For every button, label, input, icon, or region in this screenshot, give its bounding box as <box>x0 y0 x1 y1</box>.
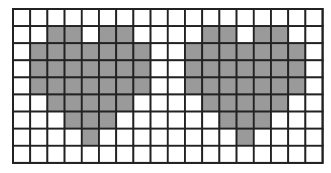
grid-cell <box>305 9 322 26</box>
grid-cell <box>30 129 47 146</box>
grid-cell <box>47 9 64 26</box>
grid-cell <box>168 146 185 163</box>
grid-cell <box>168 43 185 60</box>
grid-cell <box>13 43 30 60</box>
grid-cell <box>185 95 202 112</box>
grid-cell <box>305 112 322 129</box>
grid-cell <box>13 26 30 43</box>
right-heart-cell <box>237 60 254 77</box>
grid-cell <box>271 112 288 129</box>
grid-cell <box>219 146 236 163</box>
right-heart-cell <box>288 77 305 94</box>
grid-cell <box>133 26 150 43</box>
grid-cell <box>151 9 168 26</box>
left-heart-cell <box>82 60 99 77</box>
grid-cell <box>202 146 219 163</box>
grid-cell <box>151 26 168 43</box>
grid-cell <box>65 9 82 26</box>
left-heart-cell <box>116 60 133 77</box>
left-heart-cell <box>47 60 64 77</box>
grid-cell <box>151 43 168 60</box>
right-heart-cell <box>288 43 305 60</box>
grid-cell <box>168 129 185 146</box>
grid-cell <box>305 60 322 77</box>
left-heart-cell <box>65 95 82 112</box>
grid-cell <box>30 112 47 129</box>
grid-cell <box>305 43 322 60</box>
grid-cell <box>151 77 168 94</box>
grid-cell <box>151 146 168 163</box>
grid-cell <box>151 112 168 129</box>
left-heart-cell <box>65 112 82 129</box>
grid-cell <box>288 146 305 163</box>
grid-cell <box>254 129 271 146</box>
grid-cell <box>30 146 47 163</box>
left-heart-cell <box>82 129 99 146</box>
grid-cell <box>237 146 254 163</box>
grid-cell <box>168 26 185 43</box>
right-heart-cell <box>185 43 202 60</box>
left-heart-cell <box>82 77 99 94</box>
grid-cell <box>133 146 150 163</box>
left-heart-cell <box>133 77 150 94</box>
grid-cell <box>219 9 236 26</box>
left-heart-cell <box>99 26 116 43</box>
grid-cell <box>13 95 30 112</box>
grid-cell <box>116 146 133 163</box>
grid-cell <box>13 77 30 94</box>
left-heart-cell <box>82 112 99 129</box>
left-heart-cell <box>65 60 82 77</box>
grid-cell <box>47 112 64 129</box>
grid-cell <box>116 9 133 26</box>
right-heart-cell <box>202 60 219 77</box>
grid-cell <box>116 129 133 146</box>
grid-cell <box>185 112 202 129</box>
grid-cell <box>65 146 82 163</box>
grid-cell <box>99 129 116 146</box>
grid-cell <box>254 146 271 163</box>
right-heart-cell <box>254 77 271 94</box>
left-heart-cell <box>47 95 64 112</box>
left-heart-cell <box>82 43 99 60</box>
left-heart-cell <box>133 43 150 60</box>
grid-cell <box>305 129 322 146</box>
left-heart-cell <box>133 60 150 77</box>
right-heart-cell <box>271 60 288 77</box>
grid-cell <box>133 129 150 146</box>
grid-cell <box>305 95 322 112</box>
right-heart-cell <box>288 60 305 77</box>
grid-cell <box>82 9 99 26</box>
left-heart-cell <box>99 112 116 129</box>
grid-cell <box>151 60 168 77</box>
grid-cell <box>288 9 305 26</box>
left-heart-cell <box>82 95 99 112</box>
left-heart-cell <box>116 43 133 60</box>
grid-cell <box>133 112 150 129</box>
grid-cell <box>30 26 47 43</box>
grid-cell <box>202 9 219 26</box>
grid-cell <box>47 129 64 146</box>
left-heart-cell <box>30 77 47 94</box>
grid-cell <box>82 146 99 163</box>
right-heart-cell <box>219 95 236 112</box>
grid-cell <box>185 129 202 146</box>
right-heart-cell <box>254 43 271 60</box>
grid-cell <box>13 9 30 26</box>
right-heart-cell <box>219 43 236 60</box>
grid-cell <box>168 77 185 94</box>
grid-cell <box>13 129 30 146</box>
right-heart-cell <box>202 26 219 43</box>
grid-cell <box>254 9 271 26</box>
grid-cell <box>202 129 219 146</box>
right-heart-cell <box>237 77 254 94</box>
left-heart-cell <box>47 43 64 60</box>
left-heart-cell <box>99 60 116 77</box>
grid-cell <box>13 60 30 77</box>
right-heart-cell <box>202 77 219 94</box>
grid-cell <box>133 9 150 26</box>
grid-cell <box>168 9 185 26</box>
grid-cell <box>99 9 116 26</box>
grid-cell <box>305 146 322 163</box>
grid-cell <box>30 95 47 112</box>
right-heart-cell <box>237 112 254 129</box>
